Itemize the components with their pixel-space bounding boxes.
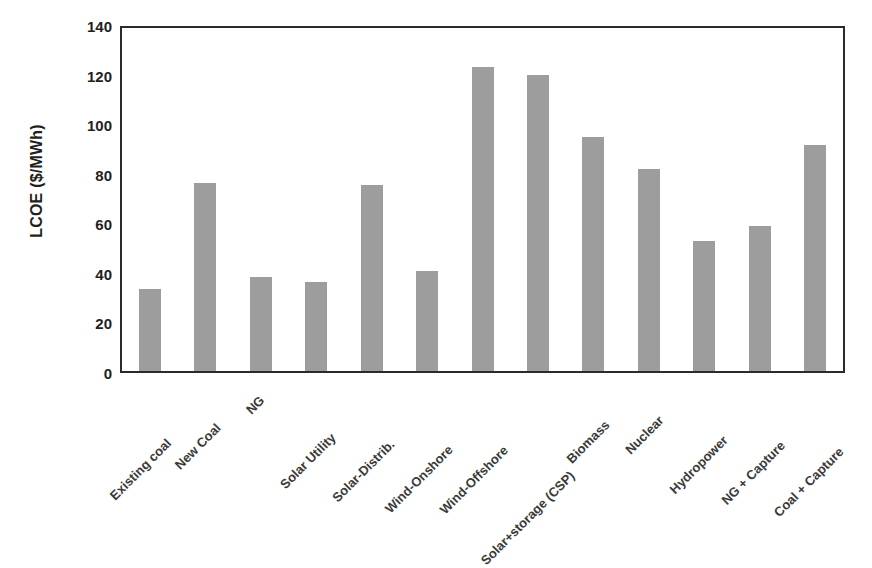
- x-tick-slot: NG + Capture: [733, 373, 789, 513]
- y-tick-label: 140: [87, 18, 112, 35]
- y-tick-label: 20: [95, 315, 112, 332]
- x-tick-slot: Wind-Onshore: [399, 373, 455, 513]
- bar-slot: [566, 28, 621, 371]
- x-tick-slot: Nuclear: [622, 373, 678, 513]
- bar[interactable]: [804, 145, 826, 371]
- y-tick-label: 120: [87, 67, 112, 84]
- x-tick-slot: Coal + Capture: [789, 373, 845, 513]
- bar-slot: [510, 28, 565, 371]
- x-tick-slot: Biomass: [566, 373, 622, 513]
- x-tick-label: NG: [257, 379, 281, 403]
- x-tick-slot: Solar+storage (CSP): [510, 373, 566, 513]
- bar-slot: [288, 28, 343, 371]
- bar[interactable]: [416, 271, 438, 371]
- bar-slot: [455, 28, 510, 371]
- bar-slot: [621, 28, 676, 371]
- y-tick-label: 0: [104, 365, 112, 382]
- bar[interactable]: [693, 241, 715, 371]
- bar-slot: [122, 28, 177, 371]
- y-tick-label: 60: [95, 216, 112, 233]
- x-tick-label: Coal + Capture: [836, 379, 872, 455]
- y-tick-label: 80: [95, 166, 112, 183]
- bar-series: [122, 28, 843, 371]
- bar[interactable]: [638, 169, 660, 371]
- y-axis-tick-labels: 140120100806040200: [72, 0, 112, 513]
- bar[interactable]: [250, 277, 272, 371]
- bar-slot: [732, 28, 787, 371]
- bar[interactable]: [472, 67, 494, 371]
- bar[interactable]: [749, 226, 771, 371]
- bar-slot: [399, 28, 454, 371]
- bar-slot: [344, 28, 399, 371]
- bar[interactable]: [582, 137, 604, 371]
- y-tick-label: 100: [87, 117, 112, 134]
- bar-slot: [177, 28, 232, 371]
- y-axis-title: LCOE ($/MWh): [28, 71, 46, 291]
- x-tick-slot: Existing coal: [120, 373, 176, 513]
- bar[interactable]: [194, 183, 216, 371]
- plot-area: [120, 26, 845, 373]
- bar[interactable]: [527, 75, 549, 371]
- bar-slot: [233, 28, 288, 371]
- x-axis-tick-labels: Existing coalNew CoalNGSolar UtilitySola…: [120, 373, 845, 513]
- bar[interactable]: [305, 282, 327, 371]
- bar[interactable]: [139, 289, 161, 371]
- x-tick-slot: Solar-Distrib.: [343, 373, 399, 513]
- y-tick-label: 40: [95, 265, 112, 282]
- bar[interactable]: [361, 185, 383, 371]
- x-tick-slot: New Coal: [176, 373, 232, 513]
- x-tick-slot: NG: [232, 373, 288, 513]
- bar-slot: [677, 28, 732, 371]
- bar-slot: [788, 28, 843, 371]
- x-tick-slot: Wind-Offshore: [455, 373, 511, 513]
